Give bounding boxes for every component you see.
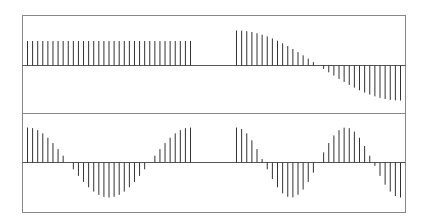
stem-plot-figure: [0, 0, 426, 223]
top-left-stems: [28, 41, 191, 66]
